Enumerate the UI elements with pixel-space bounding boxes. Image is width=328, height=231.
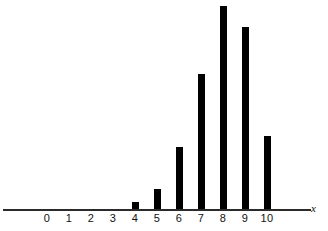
bar-4 <box>132 202 139 209</box>
bar-7 <box>198 74 205 209</box>
bar-10 <box>264 136 271 209</box>
bar-5 <box>154 189 161 209</box>
x-tick-label-3: 3 <box>110 212 116 224</box>
bar-chart-figure: 0 1 2 3 4 5 6 7 8 9 10 x <box>0 0 328 231</box>
x-tick-label-4: 4 <box>132 212 138 224</box>
x-axis-line <box>3 209 311 211</box>
x-tick-label-6: 6 <box>176 212 182 224</box>
x-axis-label: x <box>311 202 316 214</box>
x-tick-label-2: 2 <box>88 212 94 224</box>
plot-area: 0 1 2 3 4 5 6 7 8 9 10 x <box>0 0 328 231</box>
x-tick-label-10: 10 <box>261 212 274 224</box>
x-tick-label-9: 9 <box>242 212 248 224</box>
x-tick-label-0: 0 <box>44 212 50 224</box>
x-tick-label-5: 5 <box>154 212 160 224</box>
x-tick-label-1: 1 <box>66 212 72 224</box>
bar-8 <box>220 6 227 209</box>
bar-9 <box>242 27 249 209</box>
x-tick-label-8: 8 <box>220 212 226 224</box>
bar-6 <box>176 147 183 209</box>
x-tick-label-7: 7 <box>198 212 204 224</box>
